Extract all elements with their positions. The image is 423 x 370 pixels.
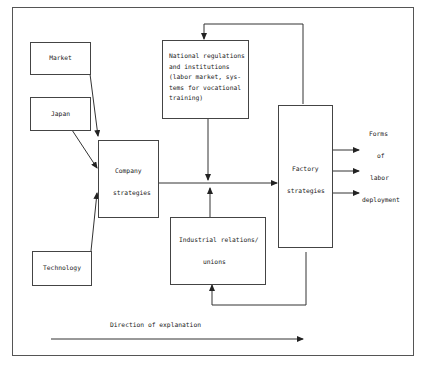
factory-strategies-box: Factory strategies <box>278 105 333 248</box>
company-label-2: strategies <box>113 188 151 199</box>
japan-box: Japan <box>30 97 91 131</box>
company-strategies-box: Company strategies <box>98 140 159 218</box>
factory-label-1: Factory <box>292 164 319 175</box>
market-box: Market <box>30 42 91 75</box>
national-line-4: tems for vocational <box>169 83 248 94</box>
output-label-deployment: deployment <box>362 196 400 203</box>
national-line-5: training) <box>169 93 248 104</box>
factory-label-2: strategies <box>287 186 325 197</box>
industrial-label-2: unions <box>203 257 226 268</box>
national-line-3: (labor market, sys- <box>169 72 248 83</box>
national-regulations-box: National regulations and institutions (l… <box>162 40 249 119</box>
direction-label: Direction of explanation <box>110 321 201 328</box>
market-label: Market <box>49 53 72 64</box>
company-label-1: Company <box>115 166 142 177</box>
industrial-label-1: Industrial relations/ <box>179 235 259 246</box>
output-label-of: of <box>377 152 385 159</box>
technology-box: Technology <box>32 251 92 286</box>
national-line-1: National regulations <box>169 51 248 62</box>
output-label-forms: Forms <box>369 130 388 137</box>
output-label-labor: labor <box>370 174 389 181</box>
technology-label: Technology <box>43 263 81 274</box>
national-line-2: and institutions <box>169 62 248 73</box>
japan-label: Japan <box>51 109 70 120</box>
industrial-relations-box: Industrial relations/ unions <box>170 217 266 285</box>
